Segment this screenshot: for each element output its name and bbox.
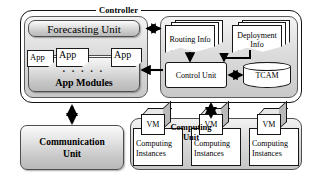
computing-unit-label: Computing Unit [160, 122, 222, 142]
tcam-label: TCAM [255, 71, 278, 80]
computing-instances-label-2b: Instances [194, 149, 224, 158]
app-label-1: App [30, 51, 45, 63]
app-modules-label: App Modules [55, 77, 113, 88]
computing-instances-label-1b: Instances [136, 149, 166, 158]
computing-unit-label-line2: Unit [183, 132, 199, 142]
forecasting-unit-box[interactable]: Forecasting Unit [28, 20, 140, 37]
app-label-3: App [114, 49, 131, 61]
vm-label-1: VM [147, 120, 160, 129]
forecasting-unit-label: Forecasting Unit [47, 23, 121, 35]
routing-info-document[interactable]: Routing Info [165, 25, 215, 54]
deployment-info-stack[interactable]: Deployment Info [232, 20, 290, 54]
routing-info-stack[interactable]: Routing Info [165, 20, 223, 54]
deployment-info-document[interactable]: Deployment Info [232, 25, 282, 54]
communication-unit-label-line1: Communication [39, 136, 104, 148]
tcam-cylinder-top [243, 62, 291, 71]
app-document-1[interactable]: App [27, 50, 54, 67]
computing-instances-label-3b: Instances [252, 149, 282, 158]
routing-info-label: Routing Info [169, 35, 210, 44]
control-unit-label: Control Unit [176, 71, 217, 80]
controller-label: Controller [96, 5, 141, 15]
computing-instances-label-3a: Computing [252, 139, 288, 148]
app-ellipsis: · · · · · [60, 67, 106, 76]
vm-cube-front-face-3: VM [257, 114, 281, 135]
vm-cube-3[interactable]: VM [257, 108, 287, 134]
computing-unit-label-line1: Computing [170, 122, 211, 132]
communication-unit-label-line2: Unit [63, 148, 81, 160]
vm-label-3: VM [263, 120, 276, 129]
app-label-2: App [59, 49, 76, 61]
diagram-canvas: Controller Forecasting Unit App Modules … [0, 0, 316, 178]
communication-unit-box[interactable]: Communication Unit [20, 125, 124, 170]
app-document-3[interactable]: App [111, 48, 142, 67]
deployment-info-label: Deployment Info [233, 31, 281, 49]
control-unit-box[interactable]: Control Unit [165, 62, 227, 88]
